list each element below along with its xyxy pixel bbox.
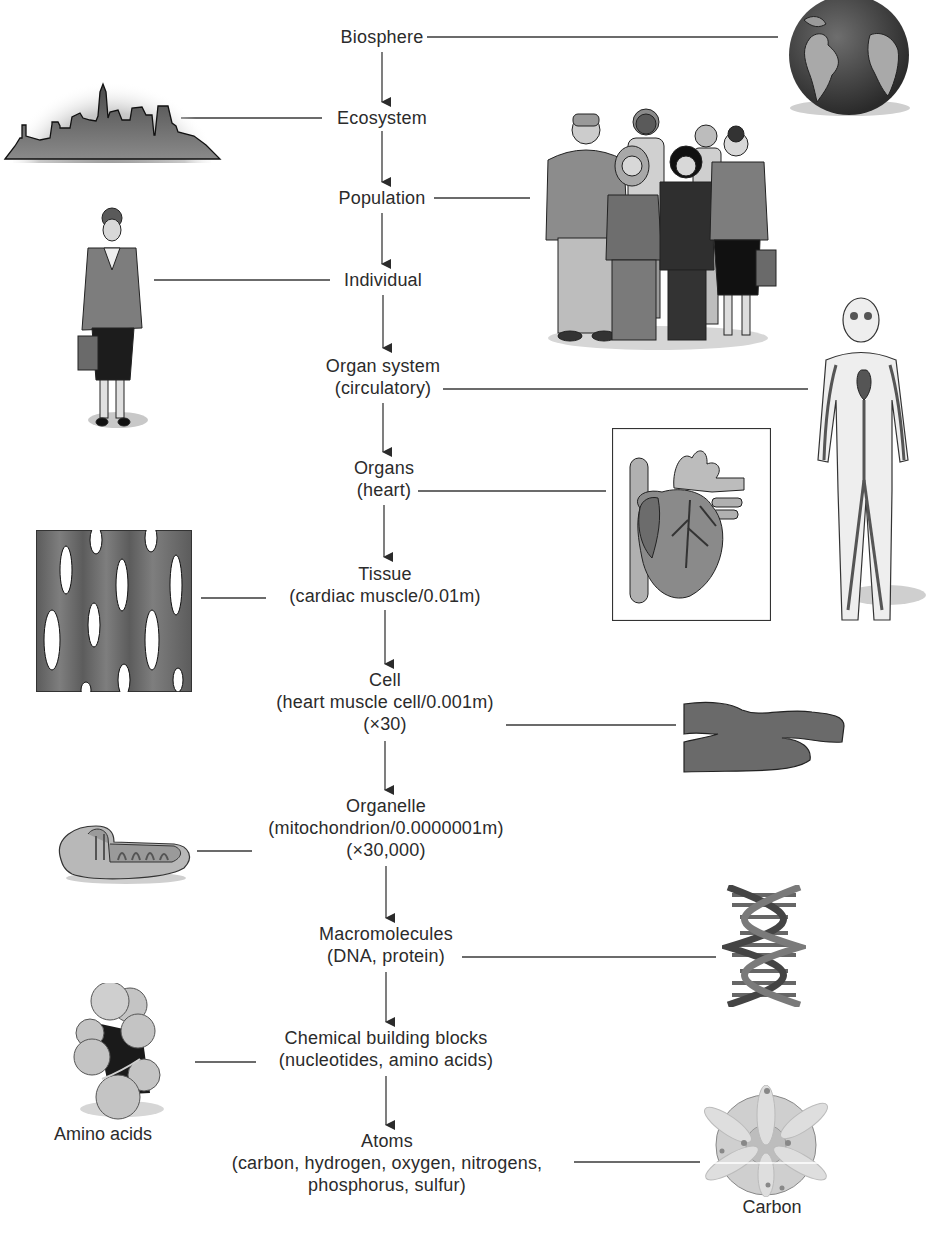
level-label: Population bbox=[338, 187, 425, 209]
level-label: Atoms bbox=[232, 1130, 543, 1152]
level-label: Organelle bbox=[268, 795, 503, 817]
level-macromolecules: Macromolecules (DNA, protein) bbox=[319, 923, 453, 967]
level-detail: (heart muscle cell/0.001m) bbox=[276, 691, 493, 713]
level-population: Population bbox=[338, 187, 425, 209]
level-atoms: Atoms (carbon, hydrogen, oxygen, nitroge… bbox=[232, 1130, 543, 1196]
level-individual: Individual bbox=[344, 269, 422, 291]
caption-carbon: Carbon bbox=[742, 1196, 801, 1218]
level-detail: (DNA, protein) bbox=[319, 945, 453, 967]
group-of-people-icon bbox=[528, 100, 778, 362]
level-detail: (mitochondrion/0.0000001m) bbox=[268, 817, 503, 839]
muscle-cell-icon bbox=[682, 698, 846, 774]
level-tissue: Tissue (cardiac muscle/0.01m) bbox=[289, 563, 480, 607]
level-detail: (circulatory) bbox=[326, 377, 440, 399]
level-detail: (cardiac muscle/0.01m) bbox=[289, 585, 480, 607]
caption-amino-acids: Amino acids bbox=[54, 1123, 152, 1145]
globe-icon bbox=[770, 0, 943, 120]
dna-helix-icon bbox=[722, 885, 806, 1007]
level-biosphere: Biosphere bbox=[341, 26, 424, 48]
level-magnification: (×30) bbox=[276, 713, 493, 735]
level-label: Individual bbox=[344, 269, 422, 291]
level-label: Biosphere bbox=[341, 26, 424, 48]
cardiac-tissue-icon bbox=[36, 530, 192, 692]
level-label: Macromolecules bbox=[319, 923, 453, 945]
level-label: Cell bbox=[276, 669, 493, 691]
level-cell: Cell (heart muscle cell/0.001m) (×30) bbox=[276, 669, 493, 735]
level-label: Tissue bbox=[289, 563, 480, 585]
level-detail: (nucleotides, amino acids) bbox=[279, 1049, 493, 1071]
circulatory-system-icon bbox=[796, 290, 941, 640]
level-ecosystem: Ecosystem bbox=[337, 107, 427, 129]
amino-acid-molecule-icon bbox=[66, 983, 166, 1123]
level-detail-continued: phosphorus, sulfur) bbox=[232, 1174, 543, 1196]
level-organ-system: Organ system (circulatory) bbox=[326, 355, 440, 399]
level-detail: (carbon, hydrogen, oxygen, nitrogens, bbox=[232, 1152, 543, 1174]
level-label: Organs bbox=[354, 457, 414, 479]
level-organs: Organs (heart) bbox=[354, 457, 414, 501]
level-label: Chemical building blocks bbox=[279, 1027, 493, 1049]
woman-with-briefcase-icon bbox=[74, 198, 156, 436]
level-label: Organ system bbox=[326, 355, 440, 377]
heart-icon bbox=[612, 428, 771, 621]
level-magnification: (×30,000) bbox=[268, 839, 503, 861]
level-label: Ecosystem bbox=[337, 107, 427, 129]
carbon-atom-icon bbox=[700, 1085, 832, 1197]
level-detail: (heart) bbox=[354, 479, 414, 501]
level-organelle: Organelle (mitochondrion/0.0000001m) (×3… bbox=[268, 795, 503, 861]
city-skyline-icon bbox=[0, 28, 225, 163]
mitochondrion-icon bbox=[54, 818, 197, 886]
level-chemical-building-blocks: Chemical building blocks (nucleotides, a… bbox=[279, 1027, 493, 1071]
